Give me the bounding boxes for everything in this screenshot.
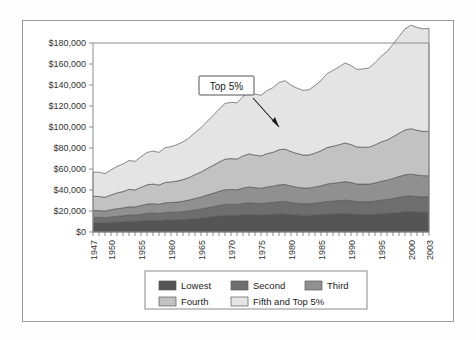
legend-swatch-fifth-and-top-5 bbox=[231, 297, 248, 306]
y-axis-ticks: $0$20,000$40,000$60,000$80,000$100,000$1… bbox=[48, 38, 93, 237]
x-tick-label: 1970 bbox=[227, 240, 237, 260]
x-tick-label: 1950 bbox=[107, 240, 117, 260]
legend-label-second: Second bbox=[253, 280, 285, 291]
y-tick-label: $20,000 bbox=[53, 206, 86, 216]
y-tick-label: $100,000 bbox=[48, 122, 86, 132]
x-tick-label: 1947 bbox=[89, 240, 99, 260]
annotation-label: Top 5% bbox=[210, 81, 243, 92]
y-tick-label: $80,000 bbox=[53, 143, 86, 153]
x-axis-tick-labels: 1947195019551960196519701975198019851990… bbox=[89, 240, 435, 260]
x-tick-label: 1980 bbox=[287, 240, 297, 260]
y-tick-label: $140,000 bbox=[48, 80, 86, 90]
stacked-area-chart: $0$20,000$40,000$60,000$80,000$100,000$1… bbox=[23, 21, 453, 321]
x-tick-label: 1955 bbox=[137, 240, 147, 260]
y-tick-label: $120,000 bbox=[48, 101, 86, 111]
chart-outer-frame: $0$20,000$40,000$60,000$80,000$100,000$1… bbox=[22, 20, 454, 322]
legend-swatch-second bbox=[231, 281, 248, 290]
legend-label-third: Third bbox=[327, 280, 349, 291]
x-tick-label: 1995 bbox=[377, 240, 387, 260]
x-tick-label: 2000 bbox=[407, 240, 417, 260]
legend-swatch-fourth bbox=[159, 297, 176, 306]
y-tick-label: $180,000 bbox=[48, 38, 86, 48]
x-tick-label: 2003 bbox=[425, 240, 435, 260]
x-tick-label: 1965 bbox=[197, 240, 207, 260]
x-tick-label: 1985 bbox=[317, 240, 327, 260]
legend-label-fifth-and-top-5: Fifth and Top 5% bbox=[253, 296, 325, 307]
y-tick-label: $60,000 bbox=[53, 164, 86, 174]
figure-root: $0$20,000$40,000$60,000$80,000$100,000$1… bbox=[0, 0, 476, 340]
legend-label-fourth: Fourth bbox=[181, 296, 208, 307]
x-tick-label: 1990 bbox=[347, 240, 357, 260]
y-tick-label: $40,000 bbox=[53, 185, 86, 195]
legend-label-lowest: Lowest bbox=[181, 280, 211, 291]
legend-swatch-lowest bbox=[159, 281, 176, 290]
x-axis-ticks bbox=[93, 232, 429, 236]
legend-swatch-third bbox=[305, 281, 322, 290]
x-tick-label: 1975 bbox=[257, 240, 267, 260]
y-tick-label: $160,000 bbox=[48, 59, 86, 69]
x-tick-label: 1960 bbox=[167, 240, 177, 260]
chart-legend: LowestSecondThirdFourthFifth and Top 5% bbox=[145, 271, 367, 309]
y-tick-label: $0 bbox=[76, 227, 86, 237]
